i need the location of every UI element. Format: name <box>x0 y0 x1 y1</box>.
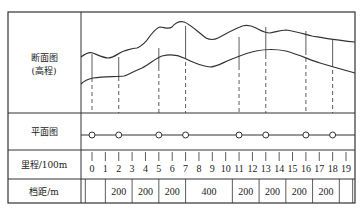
span-value: 400 <box>201 186 216 197</box>
chainage-number: 14 <box>274 163 284 174</box>
span-value: 200 <box>138 186 153 197</box>
chainage-number: 1 <box>103 163 108 174</box>
chainage-number: 4 <box>143 163 148 174</box>
tower-circle-icon <box>89 132 95 138</box>
span-value: 200 <box>238 186 253 197</box>
plan-label: 平面图 <box>31 127 58 137</box>
profile-label-line1: 断面图 <box>31 52 58 63</box>
tower-circle-icon <box>156 132 162 138</box>
chainage-number: 7 <box>183 163 188 174</box>
tower-circle-icon <box>263 132 269 138</box>
line-profile-diagram: 断面图 (高程) 平面图 里程/100m 档距/m 01234567891011… <box>0 0 364 212</box>
tower-circle-icon <box>236 132 242 138</box>
span-row: 200200200400200200200200 <box>85 179 352 203</box>
chainage-number: 5 <box>156 163 161 174</box>
chainage-label: 里程/100m <box>21 160 68 170</box>
span-label: 档距/m <box>29 186 59 197</box>
tower-circle-icon <box>116 132 122 138</box>
span-value: 200 <box>165 186 180 197</box>
profile-label-line2: (高程) <box>31 65 56 76</box>
chainage-number: 2 <box>116 163 121 174</box>
table-frame <box>8 12 355 203</box>
chainage-number: 0 <box>90 163 95 174</box>
chainage-number: 12 <box>247 163 257 174</box>
chainage-number: 19 <box>341 163 351 174</box>
chainage-number: 10 <box>221 163 231 174</box>
chainage-number: 17 <box>314 163 324 174</box>
span-value: 200 <box>111 186 126 197</box>
chainage-scale: 012345678910111213141516171819 <box>90 152 352 174</box>
lower-terrain-curve <box>81 50 355 85</box>
upper-terrain-curve <box>81 22 355 58</box>
chainage-number: 3 <box>130 163 135 174</box>
chainage-number: 8 <box>196 163 201 174</box>
span-value: 200 <box>292 186 307 197</box>
outer-border <box>8 12 355 203</box>
chainage-number: 6 <box>170 163 175 174</box>
span-value: 200 <box>318 186 333 197</box>
tower-circle-icon <box>183 132 189 138</box>
chainage-number: 15 <box>288 163 298 174</box>
chainage-number: 11 <box>234 163 244 174</box>
chainage-number: 16 <box>301 163 311 174</box>
chainage-number: 13 <box>261 163 271 174</box>
chainage-number: 18 <box>328 163 338 174</box>
span-value: 200 <box>265 186 280 197</box>
chainage-number: 9 <box>210 163 215 174</box>
tower-circle-icon <box>303 132 309 138</box>
tower-circle-icon <box>330 132 336 138</box>
